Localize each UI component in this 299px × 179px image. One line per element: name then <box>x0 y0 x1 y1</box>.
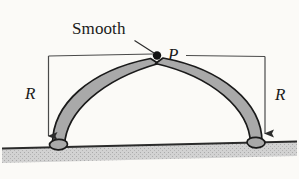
dimension-right-horizontal <box>186 56 265 57</box>
rod-right-body <box>156 58 263 144</box>
label-point-p: P <box>168 46 178 63</box>
label-radius-right: R <box>275 86 285 103</box>
rod-right-foot <box>247 137 266 148</box>
rod-left-foot <box>49 139 68 150</box>
rod-left <box>49 59 158 151</box>
dimension-left-horizontal <box>49 54 154 56</box>
rod-right <box>156 58 266 148</box>
rod-left-body <box>53 59 159 146</box>
physics-figure: Smooth P R R <box>0 0 299 179</box>
smooth-leader-line <box>135 41 155 54</box>
diagram-canvas <box>0 0 299 179</box>
label-smooth: Smooth <box>72 20 126 37</box>
label-radius-left: R <box>25 85 35 102</box>
